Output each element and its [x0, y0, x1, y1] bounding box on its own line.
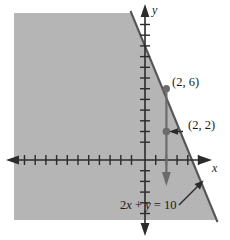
inequality-graph-figure: x y (2, 6) (2, 2) 2x + y = 10 [0, 0, 230, 240]
eq-plus: + [132, 198, 145, 212]
y-axis-label: y [152, 3, 157, 18]
eq-rhs: 10 [164, 198, 177, 212]
test-point-label: (2, 2) [188, 118, 215, 133]
point-on-line-label: (2, 6) [172, 75, 199, 90]
x-axis-label: x [212, 161, 217, 176]
shaded-region [14, 13, 216, 220]
eq-equals: = [151, 198, 164, 212]
point-on-line [163, 85, 170, 92]
boundary-line-equation-label: 2x + y = 10 [120, 198, 177, 213]
